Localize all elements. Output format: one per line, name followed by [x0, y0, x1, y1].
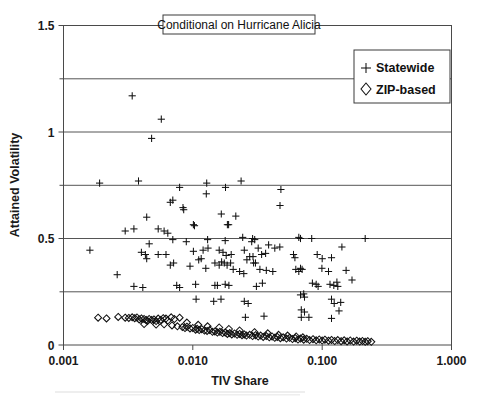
x-axis-label: TIV Share — [211, 374, 269, 388]
x-tick-label: 0.001 — [48, 354, 78, 368]
scatter-plot: 00.511.5 0.0010.0100.1001.000 TIV Share … — [0, 0, 481, 402]
y-tick-label: 0 — [48, 339, 55, 353]
legend-label-zip-based: ZIP-based — [376, 83, 436, 97]
y-tick-label: 1 — [48, 126, 55, 140]
legend[interactable]: Statewide ZIP-based — [354, 50, 450, 103]
x-tick-label: 1.000 — [436, 354, 466, 368]
chart-title-box: Conditional on Hurricane Alicia — [157, 15, 321, 34]
page-title: Conditional on Hurricane Alicia — [157, 18, 321, 32]
y-tick-label: 0.5 — [38, 232, 55, 246]
x-tick-label: 0.010 — [178, 354, 208, 368]
y-tick-label: 1.5 — [38, 19, 55, 33]
x-tick-label: 0.100 — [307, 354, 337, 368]
legend-label-statewide: Statewide — [376, 61, 434, 75]
y-axis-label: Attained Volatility — [8, 133, 22, 238]
figure-container: 00.511.5 0.0010.0100.1001.000 TIV Share … — [0, 0, 481, 402]
